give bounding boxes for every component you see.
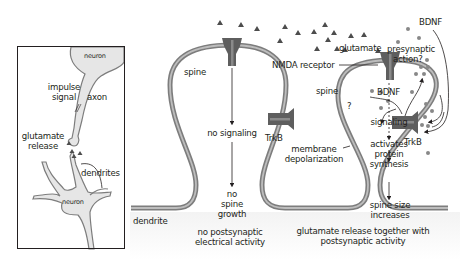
left-outcome-3: growth	[212, 209, 252, 219]
signaling-label: signaling	[354, 117, 424, 127]
membrane-depol-2: depolarization	[282, 154, 346, 164]
left-nmda-receptor-icon	[222, 38, 242, 66]
inset-bottom-neuron-label: neuron	[62, 197, 84, 207]
impulse-label-1: impulse	[43, 82, 85, 92]
no-signaling-label: no signaling	[196, 128, 268, 138]
presynaptic-label-2: action?	[393, 54, 423, 64]
left-caption-1: no postsynaptic	[180, 227, 280, 237]
right-caption-1: glutamate release together with	[278, 226, 448, 236]
question-mark: ?	[347, 101, 351, 111]
presynaptic-label-1: presynaptic	[387, 44, 435, 54]
glutamate-release-label-1: glutamate	[18, 131, 68, 141]
right-caption-2: postsynaptic activity	[278, 236, 448, 246]
activates-3: synthesis	[354, 159, 424, 169]
dendrites-label: dendrites	[81, 168, 120, 178]
inset-top-neuron-label: neuron	[84, 51, 106, 61]
activates-2: protein	[354, 149, 424, 159]
impulse-label-2: signal	[43, 92, 85, 102]
bdnf-top-label: BDNF	[419, 17, 442, 27]
right-outcome-1: spine size	[350, 200, 430, 210]
left-caption-2: electrical activity	[180, 237, 280, 247]
inner-bdnf-label: BDNF	[377, 87, 400, 97]
right-spine-label: spine	[316, 86, 338, 96]
right-outcome-2: increases	[350, 210, 430, 220]
right-trkb-label: TrkB	[404, 137, 422, 147]
dendrite-label: dendrite	[133, 216, 168, 226]
left-outcome-2: spine	[212, 199, 252, 209]
left-trkb-label: TrkB	[265, 133, 283, 143]
nmda-receptor-label: NMDA receptor	[272, 60, 335, 70]
left-outcome-1: no	[212, 189, 252, 199]
membrane-depol-1: membrane	[282, 144, 346, 154]
left-spine-label: spine	[184, 67, 206, 77]
axon-label: axon	[87, 92, 107, 102]
glutamate-label: glutamate	[339, 43, 381, 53]
glutamate-release-label-2: release	[18, 141, 68, 151]
